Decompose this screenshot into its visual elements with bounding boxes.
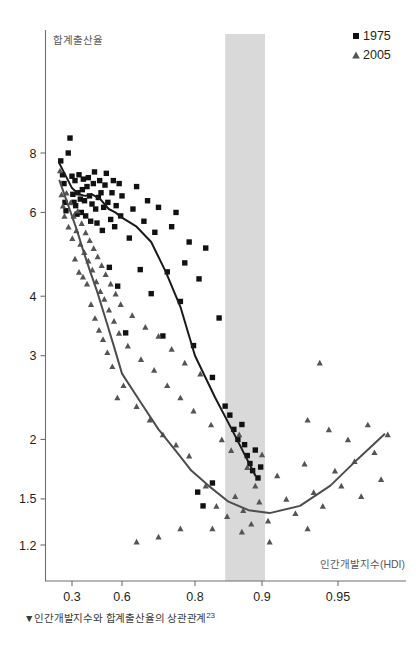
data-point-1975 — [58, 158, 63, 163]
data-point-2005 — [365, 422, 371, 428]
data-point-1975 — [253, 447, 258, 452]
data-point-2005 — [83, 229, 89, 235]
data-point-2005 — [338, 483, 344, 489]
data-point-1975 — [119, 193, 124, 198]
x-tick-label: 0.9 — [253, 590, 270, 604]
data-point-1975 — [222, 403, 227, 408]
data-point-2005 — [371, 449, 377, 455]
data-point-2005 — [274, 473, 280, 479]
x-tick-label: 0.95 — [326, 590, 350, 604]
data-point-1975 — [210, 480, 215, 485]
data-point-2005 — [69, 235, 75, 241]
data-point-2005 — [169, 346, 175, 352]
data-point-2005 — [305, 417, 311, 423]
data-point-2005 — [92, 315, 98, 321]
data-point-2005 — [134, 403, 140, 409]
data-point-1975 — [145, 198, 150, 203]
legend-label-1975: 1975 — [363, 29, 391, 43]
data-point-2005 — [311, 489, 317, 495]
data-point-2005 — [305, 526, 311, 532]
data-point-2005 — [151, 367, 157, 373]
caption-note: 23 — [206, 611, 215, 620]
data-point-2005 — [96, 327, 102, 333]
x-axis-title: 인간개발지수(HDI) — [320, 558, 405, 570]
data-point-1975 — [116, 181, 121, 186]
data-point-1975 — [152, 230, 157, 235]
data-point-2005 — [61, 213, 67, 219]
data-point-1975 — [72, 178, 77, 183]
data-point-2005 — [138, 356, 144, 362]
data-point-1975 — [84, 184, 89, 189]
data-point-2005 — [104, 349, 110, 355]
data-point-1975 — [258, 464, 263, 469]
data-point-2005 — [91, 245, 97, 251]
legend-label-2005: 2005 — [363, 48, 391, 62]
data-point-2005 — [265, 518, 271, 524]
data-point-1975 — [107, 265, 112, 270]
data-point-1975 — [102, 182, 107, 187]
y-tick-label: 8 — [30, 147, 37, 161]
data-point-1975 — [100, 228, 105, 233]
data-point-1975 — [97, 178, 102, 183]
data-point-1975 — [134, 184, 139, 189]
data-point-1975 — [112, 224, 117, 229]
data-point-1975 — [80, 187, 85, 192]
data-point-2005 — [106, 307, 112, 313]
data-point-2005 — [208, 422, 214, 428]
data-point-1975 — [227, 412, 232, 417]
data-point-2005 — [219, 437, 225, 443]
data-point-1975 — [92, 169, 97, 174]
legend-marker-2005 — [352, 52, 360, 59]
y-tick-label: 1.5 — [19, 492, 36, 506]
data-point-2005 — [142, 324, 148, 330]
trend-line-2005 — [60, 181, 385, 513]
data-point-2005 — [88, 301, 94, 307]
caption-text: ▼인간개발지수와 합계출산율의 상관관계 — [24, 612, 206, 624]
data-point-2005 — [182, 360, 188, 366]
data-point-2005 — [301, 461, 307, 467]
data-point-1975 — [86, 175, 91, 180]
data-point-1975 — [216, 315, 221, 320]
data-point-2005 — [79, 220, 85, 226]
data-point-2005 — [103, 271, 109, 277]
data-point-2005 — [164, 382, 170, 388]
data-point-2005 — [378, 476, 384, 482]
data-point-2005 — [111, 318, 117, 324]
data-point-1975 — [156, 205, 161, 210]
data-point-2005 — [109, 363, 115, 369]
data-point-1975 — [239, 422, 244, 427]
series-2005 — [57, 168, 391, 545]
data-point-1975 — [186, 239, 191, 244]
data-point-2005 — [134, 539, 140, 545]
data-point-1975 — [149, 291, 154, 296]
data-point-1975 — [88, 219, 93, 224]
y-tick-label: 4 — [30, 290, 37, 304]
data-point-1975 — [83, 213, 88, 218]
data-point-2005 — [84, 281, 90, 287]
y-axis-title: 합계출산율 — [53, 34, 103, 46]
legend: 19752005 — [352, 29, 391, 62]
data-point-1975 — [127, 235, 132, 240]
data-point-1975 — [111, 178, 116, 183]
data-point-2005 — [320, 503, 326, 509]
data-point-1975 — [203, 245, 208, 250]
data-point-1975 — [115, 283, 120, 288]
data-point-2005 — [120, 382, 126, 388]
data-point-1975 — [81, 176, 86, 181]
data-point-2005 — [190, 408, 196, 414]
data-point-1975 — [200, 503, 205, 508]
data-point-2005 — [118, 301, 124, 307]
y-tick-label: 2 — [30, 433, 37, 447]
y-tick-label: 1.2 — [19, 539, 36, 553]
data-point-1975 — [173, 210, 178, 215]
data-point-2005 — [332, 468, 338, 474]
data-point-1975 — [66, 150, 71, 155]
data-point-1975 — [138, 267, 143, 272]
data-point-1975 — [130, 206, 135, 211]
data-point-1975 — [63, 208, 68, 213]
data-point-2005 — [155, 534, 161, 540]
data-point-2005 — [177, 526, 183, 532]
data-point-1975 — [94, 220, 99, 225]
data-point-1975 — [123, 330, 128, 335]
data-point-2005 — [129, 312, 135, 318]
